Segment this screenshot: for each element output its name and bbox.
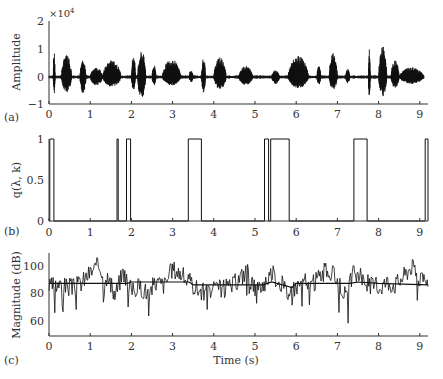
- panel-c-ytick: 100: [23, 260, 44, 273]
- panel-b-tag: (b): [4, 225, 20, 238]
- x-tick-label: 0: [46, 340, 53, 353]
- x-tick-label: 9: [416, 108, 423, 121]
- x-tick-label: 5: [252, 226, 259, 239]
- panel-b-ytick: 0: [37, 215, 44, 228]
- x-tick-label: 9: [416, 226, 423, 239]
- panel-b-ytick: 0.5: [27, 174, 45, 187]
- x-tick-label: 6: [293, 108, 300, 121]
- x-tick-label: 2: [128, 340, 135, 353]
- x-tick-label: 6: [293, 340, 300, 353]
- panel-a-tag: (a): [4, 111, 19, 124]
- x-axis-label: Time (s): [213, 354, 259, 367]
- panel-a-multiplier: ×104: [49, 7, 75, 19]
- panel-a-ytick: −1: [28, 98, 44, 111]
- x-tick-label: 2: [128, 226, 135, 239]
- x-tick-label: 2: [128, 108, 135, 121]
- amplitude-waveform: [49, 47, 424, 97]
- x-tick-label: 3: [169, 226, 176, 239]
- x-tick-label: 1: [87, 226, 94, 239]
- x-tick-label: 1: [87, 108, 94, 121]
- x-tick-label: 1: [87, 340, 94, 353]
- panel-c: 100 80 60 Magnitude (dB) (c) Time (s) 01…: [4, 251, 428, 367]
- x-tick-label: 8: [375, 340, 382, 353]
- panel-a: 2 1 0 −1 ×104 Amplitude (a) 0123456789: [4, 7, 428, 124]
- panel-c-ytick: 80: [30, 287, 44, 300]
- panel-b-ylabel: q(λ, k): [10, 162, 23, 198]
- x-tick-label: 4: [210, 226, 217, 239]
- figure: 2 1 0 −1 ×104 Amplitude (a) 0123456789 1…: [0, 0, 443, 379]
- x-tick-label: 7: [334, 108, 341, 121]
- speech-presence-line: [49, 139, 428, 221]
- x-tick-label: 3: [169, 340, 176, 353]
- x-tick-label: 3: [169, 108, 176, 121]
- x-tick-label: 6: [293, 226, 300, 239]
- x-tick-label: 5: [252, 108, 259, 121]
- x-tick-label: 8: [375, 108, 382, 121]
- x-tick-label: 7: [334, 340, 341, 353]
- panel-a-ylabel: Amplitude: [10, 33, 23, 92]
- panel-a-ytick: 2: [37, 15, 44, 28]
- x-tick-label: 4: [210, 108, 217, 121]
- x-tick-label: 5: [252, 340, 259, 353]
- x-tick-label: 0: [46, 226, 53, 239]
- panel-a-ytick: 1: [37, 43, 44, 56]
- panel-c-ylabel: Magnitude (dB): [10, 251, 23, 339]
- panel-a-ytick: 0: [37, 71, 44, 84]
- panel-b: 1 0.5 0 q(λ, k) (b) 0123456789: [4, 133, 428, 239]
- x-tick-label: 8: [375, 226, 382, 239]
- x-tick-label: 4: [210, 340, 217, 353]
- noisy-magnitude-line: [49, 258, 428, 324]
- panel-b-ytick: 1: [37, 133, 44, 146]
- x-tick-label: 7: [334, 226, 341, 239]
- panel-c-ytick: 60: [30, 315, 44, 328]
- panel-c-tag: (c): [4, 354, 19, 367]
- x-tick-label: 9: [416, 340, 423, 353]
- x-tick-label: 0: [46, 108, 53, 121]
